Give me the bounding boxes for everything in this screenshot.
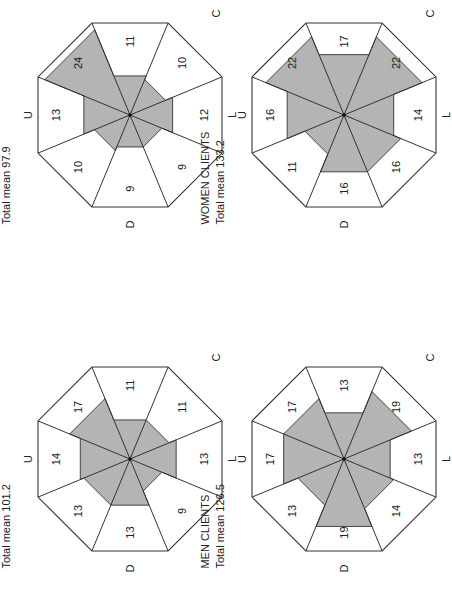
- sector-value: 12: [198, 109, 210, 121]
- sector-value: 13: [338, 379, 350, 391]
- panel-subtitle: Total mean 97.9: [0, 146, 12, 224]
- axis-label-c: C: [424, 9, 436, 17]
- sector-value: 22: [286, 57, 298, 69]
- axis-label-u: U: [22, 455, 34, 463]
- panel-men-clients: 1319131419131717CULDMEN CLIENTSTotal mea…: [199, 353, 452, 572]
- sector-value: 10: [72, 161, 84, 173]
- sector-value: 10: [176, 57, 188, 69]
- sector-value: 13: [412, 453, 424, 465]
- panel-women-clients: 1722141616111622CULDWOMEN CLIENTSTotal m…: [199, 9, 452, 228]
- axis-label-c: C: [210, 353, 222, 361]
- center-dot: [128, 113, 132, 117]
- axis-label-d: D: [338, 221, 350, 229]
- axis-label-d: D: [124, 221, 136, 229]
- axis-label-c: C: [210, 9, 222, 17]
- center-dot: [342, 457, 346, 461]
- sector-value: 17: [264, 453, 276, 465]
- sector-value: 13: [50, 109, 62, 121]
- sector-value: 16: [338, 182, 350, 194]
- sector-value: 11: [124, 380, 136, 391]
- axis-label-l: L: [440, 112, 452, 118]
- center-dot: [342, 113, 346, 117]
- axis-label-d: D: [124, 565, 136, 573]
- sector-value: 9: [176, 508, 188, 514]
- panel-subtitle: Total mean 101.2: [0, 484, 12, 568]
- sector-value: 13: [198, 453, 210, 465]
- sector-value: 13: [72, 505, 84, 517]
- sector-value: 16: [264, 109, 276, 121]
- axis-label-c: C: [424, 353, 436, 361]
- sector-value: 13: [286, 505, 298, 517]
- sector-value: 17: [338, 35, 350, 47]
- panel-title: MEN CLIENTS: [199, 495, 211, 569]
- sector-value: 11: [286, 161, 298, 172]
- axis-label-l: L: [440, 456, 452, 462]
- panel-subtitle: Total mean 126.5: [214, 484, 226, 568]
- sector-value: 24: [72, 57, 84, 69]
- sector-value: 22: [390, 57, 402, 69]
- axis-label-u: U: [236, 455, 248, 463]
- octagon-chart-figure: 11101299101324CULDWOMEN STUDENTSTotal me…: [0, 0, 452, 595]
- sector-value: 14: [412, 109, 424, 121]
- sector-value: 17: [72, 401, 84, 413]
- sector-value: 9: [124, 186, 136, 192]
- sector-value: 13: [124, 526, 136, 538]
- sector-value: 19: [390, 401, 402, 413]
- sector-value: 17: [286, 401, 298, 413]
- axis-label-d: D: [338, 565, 350, 573]
- sector-value: 11: [124, 36, 136, 47]
- center-dot: [128, 457, 132, 461]
- sector-value: 14: [390, 505, 402, 517]
- axis-label-u: U: [22, 111, 34, 119]
- panel-title: WOMEN CLIENTS: [199, 132, 211, 225]
- sector-value: 9: [176, 164, 188, 170]
- sector-value: 16: [390, 161, 402, 173]
- axis-label-u: U: [236, 111, 248, 119]
- sector-value: 14: [50, 453, 62, 465]
- figure: 11101299101324CULDWOMEN STUDENTSTotal me…: [0, 0, 452, 595]
- sector-value: 11: [176, 401, 188, 412]
- panel-subtitle: Total mean 133.2: [214, 140, 226, 224]
- sector-value: 19: [338, 526, 350, 538]
